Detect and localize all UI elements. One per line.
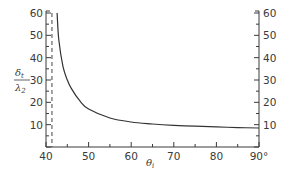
y-tick-label-right: 20: [263, 96, 276, 108]
y-tick-label-right: 10: [263, 119, 276, 131]
y-tick-label-right: 50: [263, 29, 276, 41]
x-axis-label: θi: [146, 157, 154, 170]
tick-labels: 102030405060102030405060405060708090°: [30, 7, 277, 162]
y-axis-label: δt λ2: [14, 67, 30, 95]
y-tick-label-left: 20: [30, 96, 43, 108]
x-tick-label: 90°: [250, 150, 269, 162]
x-tick-label: 70: [167, 150, 180, 162]
y-tick-label-left: 50: [30, 29, 43, 41]
x-tick-label: 40: [39, 150, 52, 162]
x-tick-label: 80: [210, 150, 223, 162]
x-tick-label: 50: [82, 150, 95, 162]
y-tick-label-left: 40: [30, 52, 43, 64]
x-tick-label: 60: [125, 150, 138, 162]
y-tick-label-left: 30: [30, 74, 43, 86]
y-tick-label-right: 40: [263, 52, 276, 64]
plot-area: 102030405060102030405060405060708090° δt…: [0, 0, 290, 179]
axes: [46, 11, 259, 147]
y-label-numerator: δt: [15, 67, 24, 80]
data-curve: [57, 13, 259, 128]
y-tick-label-right: 60: [263, 7, 276, 19]
y-label-denominator: λ2: [14, 82, 26, 95]
y-tick-label-right: 30: [263, 74, 276, 86]
y-tick-label-left: 60: [30, 7, 43, 19]
y-tick-label-left: 10: [30, 119, 43, 131]
chart: 102030405060102030405060405060708090° δt…: [0, 0, 290, 179]
